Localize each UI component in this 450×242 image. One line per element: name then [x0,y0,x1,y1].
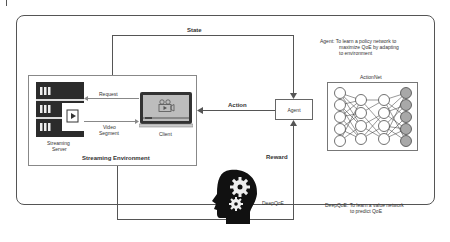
deepqoe-note-line2: to predict QoE [325,208,404,214]
deepqoe-label: DeepQoE [262,200,284,206]
reward-line-up [293,126,294,219]
head-gears-icon [210,168,260,226]
video-segment-line [84,121,136,122]
reward-label: Reward [266,154,288,160]
agent-label: Agent [287,107,300,113]
agent-note-line3: to environment [320,50,399,56]
actionnet-label: ActionNet [360,74,382,80]
state-line-top [112,35,294,36]
actionnet-box [327,82,418,151]
laptop-video-icon [139,91,193,129]
agent-note: Agent: To learn a policy network to maxi… [320,38,399,56]
corner-mark [6,0,7,6]
agent-box: Agent [275,99,313,120]
video-segment-label-2: Segment [99,130,119,136]
environment-label: Streaming Environment [82,155,150,161]
request-line [87,98,139,99]
reward-line-down [117,165,118,219]
reward-line-bottom [117,219,294,220]
deepqoe-note: DeepQoE: To learn a value network to pre… [325,202,404,214]
request-arrow-head-icon [84,96,88,101]
action-label: Action [228,102,247,108]
server-label-2: Server [52,146,67,152]
action-arrow-head-icon [197,107,203,114]
neural-network-icon [328,83,417,150]
state-label: State [187,27,202,33]
state-line-down [293,35,294,95]
state-line-up [112,35,113,75]
request-label: Request [99,91,118,97]
reward-arrow-head-icon [290,120,297,126]
server-rack-icon [36,82,84,137]
client-label: Client [159,131,172,137]
action-line [202,110,275,111]
